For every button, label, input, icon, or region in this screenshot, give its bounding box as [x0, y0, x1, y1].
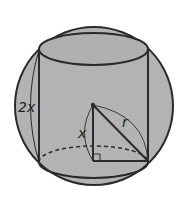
label-x: x	[77, 125, 87, 141]
diagram-canvas: 2x x r	[0, 0, 189, 206]
cylinder-top-ellipse	[39, 33, 148, 65]
label-2x: 2x	[18, 99, 36, 115]
inscribed-cylinder-diagram: 2x x r	[0, 0, 189, 206]
